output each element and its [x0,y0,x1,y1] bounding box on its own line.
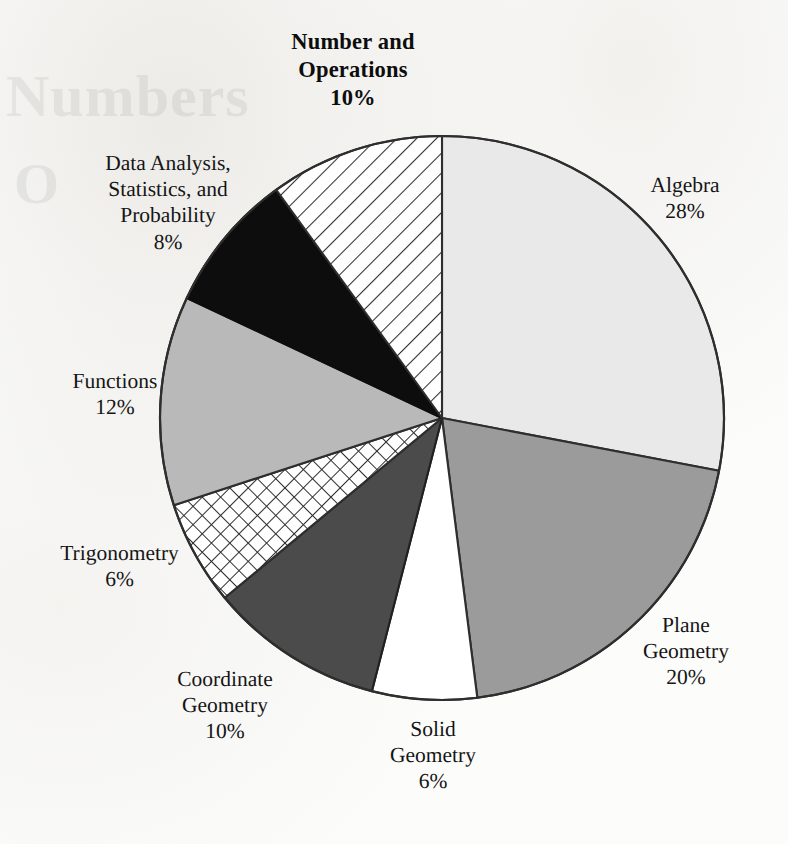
chart-title-number-and-operations: Number and Operations 10% [218,28,488,112]
slice-label-plane-geometry: Plane Geometry 20% [596,612,776,691]
slice-label-solid-geometry: Solid Geometry 6% [338,716,528,795]
slice-label-algebra: Algebra 28% [590,172,780,224]
slice-label-functions: Functions 12% [20,368,210,420]
slice-label-trigonometry: Trigonometry 6% [12,540,227,592]
slice-label-coordinate-geometry: Coordinate Geometry 10% [120,666,330,745]
chart-page: Numbers O Number and Operations 10% Alge… [0,0,788,844]
slice-label-data-analysis: Data Analysis, Statistics, and Probabili… [48,150,288,255]
